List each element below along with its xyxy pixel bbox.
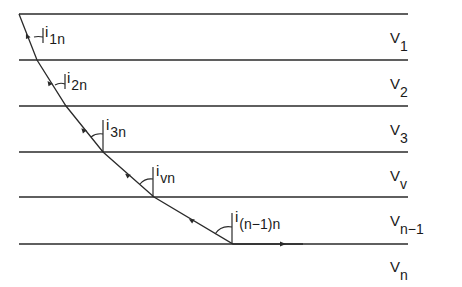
layer-label-sub: n (400, 267, 408, 283)
layer-label-vn: Vn (390, 259, 408, 275)
arrow-icon (280, 242, 286, 247)
layer-label-main: V (390, 167, 400, 184)
arrow-icon (24, 32, 30, 38)
layer-label-v1: V1 (390, 30, 408, 46)
angle-label-main: i (67, 69, 70, 86)
layer-label-sub: 1 (400, 38, 408, 54)
layer-label-main: V (390, 121, 400, 138)
angle-label-i1n: i1n (45, 24, 65, 40)
layer-label-sub: v (400, 176, 407, 192)
angle-label-ivn: ivn (156, 163, 175, 179)
angle-arc-3 (91, 134, 103, 137)
angle-label-main: i (106, 116, 109, 133)
angle-label-i3n: i3n (106, 117, 126, 133)
angle-label-i2n: i2n (67, 70, 87, 86)
angle-label-sub: 3n (110, 124, 126, 140)
angle-arc-n1 (215, 227, 232, 234)
angle-label-in-1n: i(n−1)n (235, 209, 280, 225)
angle-arc-1 (34, 37, 43, 38)
layer-label-main: V (390, 258, 400, 275)
angle-label-main: i (45, 23, 48, 40)
angle-label-sub: 2n (71, 77, 87, 93)
layer-label-sub: 3 (400, 130, 408, 146)
layer-label-main: V (390, 29, 400, 46)
layer-label-sub: n−1 (400, 221, 424, 237)
angle-arc-2 (55, 83, 65, 85)
layer-label-v3: V3 (390, 122, 408, 138)
layer-label-v2: V2 (390, 76, 408, 92)
layer-label-main: V (390, 75, 400, 92)
arrow-icon (124, 172, 131, 179)
angle-arcs (34, 37, 232, 235)
layer-label-vn-1: Vn−1 (390, 213, 424, 229)
angle-label-sub: vn (160, 170, 175, 186)
layer-label-vv: Vv (390, 168, 407, 184)
angle-arc-v (140, 179, 153, 184)
layer-boundaries (19, 14, 408, 244)
angle-label-main: i (156, 162, 159, 179)
angle-label-sub: 1n (49, 31, 65, 47)
angle-label-main: i (235, 208, 238, 225)
layer-label-sub: 2 (400, 84, 408, 100)
layer-label-main: V (390, 212, 400, 229)
angle-label-sub: (n−1)n (239, 216, 280, 232)
